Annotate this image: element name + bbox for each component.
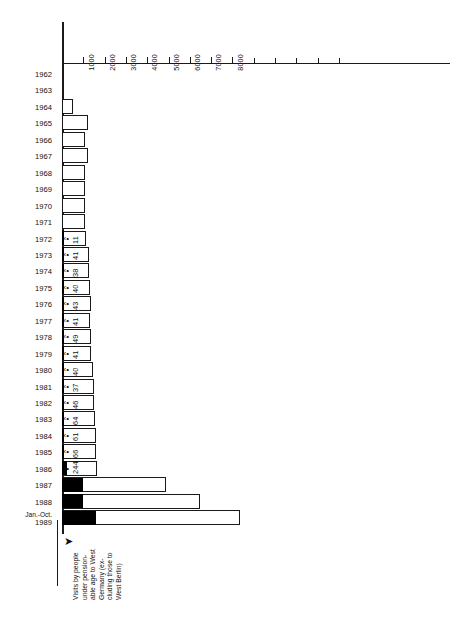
y-axis-label-1966: 1966 (0, 136, 52, 145)
y-axis-label-jan-oct-1989: Jan.-Oct.1989 (0, 511, 52, 527)
y-axis-label-1973: 1973 (0, 251, 52, 260)
horizontal-bar-chart: 10002000300040005000600070008000 1962196… (0, 0, 456, 640)
segment-value-1977: 41 (71, 318, 80, 326)
annotation-line-2: under pension- (81, 536, 89, 600)
x-tick-label-3000: 3000 (129, 54, 138, 71)
segment-arrow-icon-1982: ‹• (64, 399, 69, 407)
x-tick-6000 (190, 57, 191, 63)
y-axis-label-1964: 1964 (0, 103, 52, 112)
segment-value-1984: 61 (71, 433, 80, 441)
segment-arrow-icon-1981: ‹• (64, 383, 69, 391)
segment-arrow-icon-1980: ‹• (64, 366, 69, 374)
x-tick-4000 (147, 57, 148, 63)
segment-value-1980: 40 (71, 367, 80, 375)
bar-under-pension-age-jan-oct-1989 (62, 511, 96, 525)
y-axis-label-1981: 1981 (0, 383, 52, 392)
y-axis-label-1979: 1979 (0, 350, 52, 359)
x-tick-2000 (105, 57, 106, 63)
bar-total-1967 (62, 148, 88, 163)
x-tick-7000 (211, 57, 212, 63)
x-tick-minor-13000 (339, 58, 340, 63)
y-axis-label-1978: 1978 (0, 333, 52, 342)
segment-arrow-icon-1979: ‹• (64, 350, 69, 358)
segment-value-1975: 40 (71, 285, 80, 293)
segment-value-1979: 41 (71, 351, 80, 359)
y-axis-label-1965: 1965 (0, 119, 52, 128)
segment-arrow-icon-1986: ‹• (64, 465, 69, 473)
y-axis-label-1983: 1983 (0, 415, 52, 424)
y-axis-label-1977: 1977 (0, 317, 52, 326)
y-axis-label-1974: 1974 (0, 267, 52, 276)
y-axis-label-1969: 1969 (0, 185, 52, 194)
x-tick-label-8000: 8000 (236, 54, 245, 71)
y-axis-label-1986: 1986 (0, 465, 52, 474)
y-axis-label-1976: 1976 (0, 300, 52, 309)
segment-value-1982: 46 (71, 400, 80, 408)
x-tick-minor-12000 (318, 58, 319, 63)
segment-arrow-icon-1978: ‹• (64, 333, 69, 341)
y-axis-label-1967: 1967 (0, 152, 52, 161)
segment-arrow-icon-1983: ‹• (64, 415, 69, 423)
segment-value-1978: 49 (71, 334, 80, 342)
annotation-stem (57, 520, 58, 586)
segment-arrow-icon-1976: ‹• (64, 300, 69, 308)
y-axis-label-1982: 1982 (0, 399, 52, 408)
x-tick-label-1000: 1000 (87, 54, 96, 71)
y-axis-label-1980: 1980 (0, 366, 52, 375)
annotation-line-6: West Berlin) (115, 536, 123, 600)
y-axis-label-1988: 1988 (0, 498, 52, 507)
annotation-line-1: Visits by people (72, 536, 80, 600)
x-tick-5000 (169, 57, 170, 63)
x-tick-1000 (83, 57, 84, 63)
x-tick-minor-10000 (275, 58, 276, 63)
x-tick-label-6000: 6000 (193, 54, 202, 71)
bar-under-pension-age-1988 (62, 494, 83, 508)
x-tick-minor-11000 (296, 58, 297, 63)
y-axis-label-1971: 1971 (0, 218, 52, 227)
segment-arrow-icon-1977: ‹• (64, 317, 69, 325)
y-axis-label-1975: 1975 (0, 284, 52, 293)
bar-total-1963 (62, 82, 64, 97)
bar-total-1962 (62, 66, 64, 81)
y-axis-label-1984: 1984 (0, 432, 52, 441)
bar-total-1968 (62, 165, 85, 180)
x-tick-3000 (126, 57, 127, 63)
segment-value-1983: 64 (71, 417, 80, 425)
x-axis-line (62, 63, 450, 64)
y-axis-label-1972: 1972 (0, 235, 52, 244)
x-tick-label-5000: 5000 (172, 54, 181, 71)
x-tick-minor-9000 (254, 58, 255, 63)
bar-total-1971 (62, 214, 85, 229)
bar-total-1964 (62, 99, 73, 114)
bar-total-1969 (62, 181, 85, 196)
bar-under-pension-age-1987 (62, 478, 83, 492)
x-tick-label-7000: 7000 (214, 54, 223, 71)
annotation-line-5: cluding those to (106, 536, 114, 600)
bar-total-1970 (62, 198, 85, 213)
x-tick-8000 (232, 57, 233, 63)
segment-value-1974: 38 (71, 268, 80, 276)
segment-value-1973: 41 (71, 252, 80, 260)
y-axis-label-1985: 1985 (0, 448, 52, 457)
bar-total-1966 (62, 132, 85, 147)
segment-arrow-icon-1974: ‹• (64, 267, 69, 275)
segment-arrow-icon-1984: ‹• (64, 432, 69, 440)
x-tick-label-4000: 4000 (150, 54, 159, 71)
y-axis-label-1970: 1970 (0, 202, 52, 211)
x-tick-label-2000: 2000 (108, 54, 117, 71)
segment-arrow-icon-1973: ‹• (64, 251, 69, 259)
bar-total-1965 (62, 115, 88, 130)
annotation-line-4: Germany (ex- (98, 536, 106, 600)
y-axis-label-1987: 1987 (0, 481, 52, 490)
y-axis-label-1962: 1962 (0, 70, 52, 79)
segment-value-1972: 11 (71, 236, 80, 244)
segment-arrow-icon-1985: ‹• (64, 448, 69, 456)
y-axis-label-1963: 1963 (0, 86, 52, 95)
segment-value-1985: 66 (71, 449, 80, 457)
annotation-line-3: able age to West (89, 536, 97, 600)
segment-value-1981: 37 (71, 384, 80, 392)
segment-arrow-icon-1972: ‹• (64, 235, 69, 243)
y-axis-label-1968: 1968 (0, 169, 52, 178)
segment-value-1986: 244 (71, 462, 80, 475)
segment-arrow-icon-1975: ‹• (64, 284, 69, 292)
